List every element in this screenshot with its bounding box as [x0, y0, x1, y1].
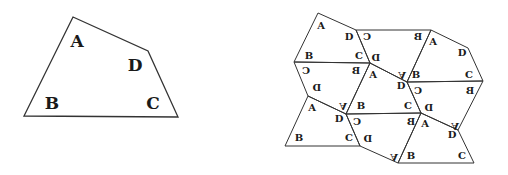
vertex-label-a: A: [368, 69, 377, 80]
vertex-label-d: D: [371, 52, 380, 63]
vertex-label-a: A: [389, 152, 398, 163]
vertex-label-c: C: [146, 93, 160, 113]
vertex-label-c: C: [355, 50, 363, 61]
vertex-label-b: B: [407, 150, 415, 161]
vertex-label-b: B: [305, 50, 313, 61]
vertex-label-c: C: [363, 31, 371, 42]
vertex-label-d: D: [397, 80, 406, 91]
vertex-label-a: A: [420, 118, 429, 129]
vertex-label-b: B: [357, 100, 365, 111]
vertex-label-b: B: [45, 93, 59, 113]
vertex-label-c: C: [353, 116, 361, 127]
vertex-label-d: D: [448, 129, 457, 140]
vertex-label-c: C: [404, 100, 412, 111]
vertex-label-b: B: [352, 65, 360, 76]
single-quadrilateral: ADBC: [24, 17, 178, 117]
vertex-label-b: B: [407, 116, 415, 127]
vertex-label-b: B: [466, 85, 474, 96]
vertex-label-d: D: [128, 55, 143, 75]
vertex-label-b: B: [295, 132, 303, 143]
vertex-label-d: D: [335, 113, 344, 124]
vertex-label-d: D: [312, 82, 321, 93]
vertex-label-b: B: [414, 31, 422, 42]
vertex-label-c: C: [302, 65, 310, 76]
vertex-label-a: A: [316, 20, 325, 31]
vertex-label-d: D: [458, 47, 467, 58]
vertex-label-a: A: [428, 36, 437, 47]
vertex-label-d: D: [345, 31, 354, 42]
vertex-label-b: B: [412, 69, 420, 80]
vertex-label-d: D: [363, 133, 372, 144]
diagram-canvas: ADBC ADBCCBDAADBCCBDAADBCCBDAADBCCBDAADB…: [0, 0, 508, 175]
vertex-label-d: D: [424, 102, 433, 113]
quadrilateral-tiling: ADBCCBDAADBCCBDAADBCCBDAADBCCBDAADBC: [285, 13, 483, 163]
vertex-label-c: C: [414, 85, 422, 96]
vertex-label-c: C: [345, 132, 353, 143]
vertex-label-a: A: [69, 31, 84, 51]
vertex-label-a: A: [307, 102, 316, 113]
vertex-label-c: C: [458, 150, 466, 161]
vertex-label-c: C: [465, 69, 473, 80]
vertex-label-a: A: [338, 101, 347, 112]
